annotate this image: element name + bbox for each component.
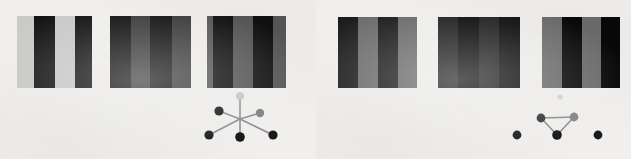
diagram-canvas bbox=[203, 92, 285, 142]
grating-patch-6 bbox=[542, 17, 620, 88]
grating-bar bbox=[338, 17, 358, 88]
grating-bars bbox=[17, 16, 92, 88]
grating-bar bbox=[458, 17, 479, 88]
grating-bar bbox=[273, 16, 286, 88]
grating-patch-3 bbox=[207, 16, 286, 88]
grating-patch-2 bbox=[110, 16, 191, 88]
grating-bars bbox=[207, 16, 286, 88]
diagram-edge bbox=[240, 119, 273, 135]
diagram-canvas bbox=[512, 90, 608, 142]
grating-bar bbox=[75, 16, 92, 88]
grating-bar bbox=[438, 17, 458, 88]
grating-bar bbox=[253, 16, 273, 88]
right-panel bbox=[316, 0, 631, 159]
grating-patch-5 bbox=[438, 17, 520, 88]
diagram-node bbox=[256, 109, 264, 117]
grating-bars bbox=[438, 17, 520, 88]
grating-bars bbox=[338, 17, 417, 88]
grating-patch-1 bbox=[17, 16, 92, 88]
grating-bars bbox=[542, 17, 620, 88]
grating-bar bbox=[213, 16, 233, 88]
grating-bar bbox=[398, 17, 417, 88]
grating-bar bbox=[479, 17, 499, 88]
diagram-edge bbox=[541, 117, 574, 118]
diagram-node bbox=[552, 130, 562, 140]
diagram-node bbox=[236, 92, 244, 100]
grating-bar bbox=[601, 17, 620, 88]
star-node-link-diagram bbox=[203, 92, 285, 142]
grating-bar bbox=[233, 16, 253, 88]
diagram-node bbox=[537, 114, 546, 123]
diagram-node bbox=[214, 106, 223, 115]
grating-bar bbox=[499, 17, 520, 88]
left-panel bbox=[0, 0, 316, 159]
diagram-node bbox=[268, 130, 277, 139]
grating-bars bbox=[110, 16, 191, 88]
grating-bar bbox=[34, 16, 55, 88]
grating-bar bbox=[582, 17, 601, 88]
grating-patch-4 bbox=[338, 17, 417, 88]
grating-bar bbox=[131, 16, 150, 88]
grating-bar bbox=[55, 16, 75, 88]
grating-bar bbox=[150, 16, 172, 88]
diagram-node bbox=[513, 131, 522, 140]
triangle-node-link-diagram bbox=[512, 90, 608, 142]
diagram-node bbox=[204, 130, 213, 139]
grating-bar bbox=[17, 16, 34, 88]
diagram-edge bbox=[209, 119, 240, 135]
grating-bar bbox=[358, 17, 378, 88]
figure-canvas bbox=[0, 0, 631, 159]
grating-bar bbox=[562, 17, 582, 88]
grating-bar bbox=[542, 17, 562, 88]
diagram-node bbox=[557, 94, 562, 99]
diagram-node bbox=[594, 131, 603, 140]
diagram-node bbox=[570, 113, 579, 122]
grating-bar bbox=[172, 16, 191, 88]
diagram-node bbox=[235, 132, 245, 142]
grating-bar bbox=[110, 16, 131, 88]
grating-bar bbox=[378, 17, 398, 88]
